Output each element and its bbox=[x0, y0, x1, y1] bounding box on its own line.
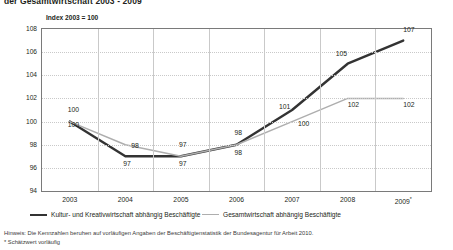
data-point-label: 98 bbox=[235, 129, 243, 136]
y-axis-tick-label: 102 bbox=[18, 94, 37, 101]
gridline-horizontal bbox=[42, 168, 431, 169]
x-axis-tick-label: 2005 bbox=[153, 196, 209, 203]
data-point-label: 97 bbox=[179, 160, 187, 167]
x-axis-tick-label: 2006 bbox=[209, 196, 265, 203]
data-point-label: 100 bbox=[68, 121, 79, 128]
data-point-label: 102 bbox=[403, 101, 414, 108]
data-point-label: 98 bbox=[131, 142, 139, 149]
y-axis-tick-label: 106 bbox=[18, 48, 37, 55]
y-axis-tick-label: 104 bbox=[18, 71, 37, 78]
gridline-vertical bbox=[375, 29, 376, 191]
data-point-label: 102 bbox=[348, 101, 359, 108]
legend-swatch-icon bbox=[30, 214, 47, 216]
data-point-label: 97 bbox=[123, 160, 131, 167]
data-point-label: 100 bbox=[68, 106, 79, 113]
x-axis-tick-label: 2007 bbox=[264, 196, 320, 203]
plot-area bbox=[41, 28, 432, 192]
gridline-horizontal bbox=[42, 145, 431, 146]
x-axis-tick-label: 2004 bbox=[98, 196, 154, 203]
gridline-vertical bbox=[153, 29, 154, 191]
gridline-horizontal bbox=[42, 122, 431, 123]
legend-item[interactable]: Gesamtwirtschaft abhängig Beschäftigte bbox=[202, 211, 341, 218]
data-point-label: 98 bbox=[235, 149, 243, 156]
data-point-label: 105 bbox=[336, 50, 347, 57]
series-lines bbox=[42, 29, 431, 191]
gridline-horizontal bbox=[42, 75, 431, 76]
y-axis-tick-label: 94 bbox=[18, 187, 37, 194]
gridline-vertical bbox=[98, 29, 99, 191]
legend-item-label: Gesamtwirtschaft abhängig Beschäftigte bbox=[223, 211, 341, 218]
data-point-label: 107 bbox=[403, 26, 414, 33]
chart-figure: der Gesamtwirtschaft 2003 - 2009 Index 2… bbox=[0, 0, 453, 250]
y-axis-tick-label: 108 bbox=[18, 25, 37, 32]
legend-item-label: Kultur- und Kreativwirtschaft abhängig B… bbox=[51, 211, 201, 218]
y-axis-tick-label: 98 bbox=[18, 141, 37, 148]
gridline-horizontal bbox=[42, 98, 431, 99]
x-axis-tick-label: 2008 bbox=[320, 196, 376, 203]
data-point-label: 100 bbox=[298, 120, 309, 127]
legend-swatch-icon bbox=[202, 214, 219, 215]
y-axis-tick-label: 96 bbox=[18, 164, 37, 171]
legend: Kultur- und Kreativwirtschaft abhängig B… bbox=[30, 211, 450, 223]
y-axis-tick-label: 100 bbox=[18, 118, 37, 125]
data-point-label: 101 bbox=[279, 103, 290, 110]
gridline-vertical bbox=[264, 29, 265, 191]
x-axis-tick-label: 2003 bbox=[42, 196, 98, 203]
legend-item[interactable]: Kultur- und Kreativwirtschaft abhängig B… bbox=[30, 211, 201, 218]
footnote-estimate: * Schätzwert vorläufig bbox=[4, 239, 60, 245]
x-axis-tick-label: 2009* bbox=[375, 196, 431, 205]
gridline-horizontal bbox=[42, 52, 431, 53]
footnote-hinweis: Hinweis: Die Kennzahlen beruhen auf vorl… bbox=[4, 230, 313, 236]
gridline-vertical bbox=[209, 29, 210, 191]
data-point-label: 97 bbox=[179, 141, 187, 148]
gridline-vertical bbox=[320, 29, 321, 191]
